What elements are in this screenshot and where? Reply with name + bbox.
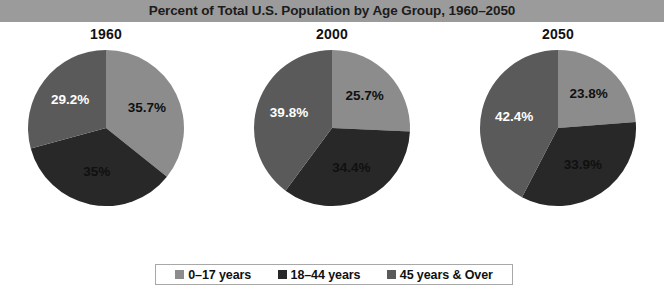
- legend-swatch-45-over: [387, 270, 396, 279]
- pie-svg: 23.8%33.9%42.4%: [476, 48, 640, 208]
- pie-slice-label: 25.7%: [346, 88, 384, 103]
- legend-label-18-44: 18–44 years: [291, 268, 361, 282]
- legend-item-0-17[interactable]: 0–17 years: [175, 268, 251, 282]
- page-title: Percent of Total U.S. Population by Age …: [0, 0, 664, 22]
- pie-svg: 35.7%35%29.2%: [24, 48, 188, 208]
- pie-panel-2000: 2000 25.7%34.4%39.8%: [226, 26, 438, 258]
- pie-slice-label: 35%: [83, 164, 110, 179]
- pie-chart-2050: 23.8%33.9%42.4%: [452, 48, 664, 208]
- chart-page: Percent of Total U.S. Population by Age …: [0, 0, 664, 294]
- pie-panel-1960: 1960 35.7%35%29.2%: [0, 26, 212, 258]
- legend-swatch-0-17: [175, 270, 184, 279]
- chart-legend: 0–17 years 18–44 years 45 years & Over: [155, 264, 513, 285]
- legend-label-0-17: 0–17 years: [188, 268, 251, 282]
- legend-label-45-over: 45 years & Over: [400, 268, 493, 282]
- legend-item-45-over[interactable]: 45 years & Over: [387, 268, 493, 282]
- pie-chart-1960: 35.7%35%29.2%: [0, 48, 212, 208]
- pie-slice-label: 35.7%: [128, 100, 166, 115]
- pie-slice-label: 33.9%: [564, 157, 602, 172]
- pie-panel-2050: 2050 23.8%33.9%42.4%: [452, 26, 664, 258]
- pie-slice-label: 39.8%: [270, 105, 308, 120]
- pie-year-label-2050: 2050: [452, 26, 664, 42]
- pie-slice-label: 23.8%: [570, 86, 608, 101]
- pie-slice-label: 34.4%: [332, 160, 370, 175]
- pie-year-label-2000: 2000: [226, 26, 438, 42]
- pie-year-label-1960: 1960: [0, 26, 212, 42]
- title-band: Percent of Total U.S. Population by Age …: [0, 0, 664, 22]
- pie-svg: 25.7%34.4%39.8%: [250, 48, 414, 208]
- legend-item-18-44[interactable]: 18–44 years: [278, 268, 361, 282]
- pie-slice-label: 29.2%: [51, 92, 89, 107]
- pie-slice-label: 42.4%: [495, 109, 533, 124]
- legend-swatch-18-44: [278, 270, 287, 279]
- pie-chart-2000: 25.7%34.4%39.8%: [226, 48, 438, 208]
